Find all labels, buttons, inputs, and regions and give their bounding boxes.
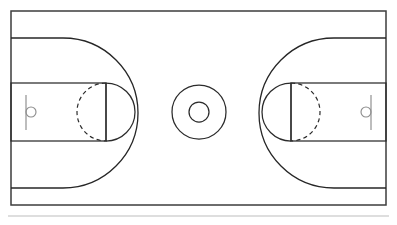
basketball-court-diagram [0,0,397,225]
left-rim-icon [26,107,36,117]
court-outline [11,11,386,205]
right-free-throw-circle-dashed [291,83,320,141]
right-half-court [259,38,386,188]
right-rim-icon [361,107,371,117]
left-three-point-arc [63,38,138,188]
diagram-canvas [0,0,397,225]
left-free-throw-circle-solid [106,83,135,141]
left-half-court [11,38,138,188]
left-key-rectangle [11,83,106,141]
right-three-point-arc [259,38,334,188]
right-free-throw-circle-solid [262,83,291,141]
center-circle-inner [189,102,209,122]
left-free-throw-circle-dashed [77,83,106,141]
center-court [172,85,226,139]
right-key-rectangle [291,83,386,141]
center-circle-outer [172,85,226,139]
